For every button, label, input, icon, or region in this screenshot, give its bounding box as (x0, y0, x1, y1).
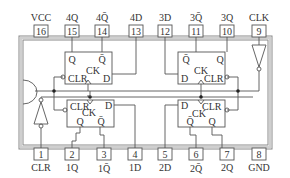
q-output-label: Q (216, 54, 224, 65)
pin-6: 6 2Q̄ (189, 148, 203, 174)
junction-dot (199, 95, 203, 99)
pin-number: 8 (257, 149, 262, 160)
q-output-label: Q (208, 116, 216, 127)
q-output-label: Q (76, 116, 84, 127)
pin-label: 2D (159, 162, 171, 173)
flip-flop-2: D CLR CK Q̄ Q (178, 100, 229, 127)
pin-label: 4Q (66, 12, 79, 23)
ck-input-label: CK (192, 108, 207, 119)
pin-number: 11 (191, 26, 201, 37)
pin-number: 15 (67, 26, 77, 37)
pin-label: 4Q̄ (96, 12, 109, 23)
pin-3: 3 1Q̄ (97, 148, 111, 174)
pin-14: 14 4Q̄ (95, 12, 109, 37)
top-pins: 16 VCC 15 4Q 14 4Q̄ 13 4D 12 3D 11 3Q̄ (31, 12, 270, 37)
chip-body (19, 36, 272, 149)
clr-input-label: CLR (68, 73, 88, 84)
pin-number: 3 (102, 149, 107, 160)
pin-12: 12 3D (158, 12, 172, 37)
pin-label: 2Q (221, 162, 234, 173)
qbar-output-label: Q̄ (186, 116, 194, 127)
pin-number: 4 (133, 149, 138, 160)
pin-number: 1 (39, 149, 44, 160)
clr-input-label: CLR (204, 73, 224, 84)
pin-label: CLR (31, 162, 51, 173)
pin-16: 16 VCC (31, 12, 52, 37)
pin-label: 1D (129, 162, 141, 173)
qbar-output-label: Q̄ (98, 54, 106, 65)
pin-10: 10 3Q (220, 12, 234, 37)
pin-15: 15 4Q (65, 12, 79, 37)
clr-inverter (34, 102, 48, 124)
ck-input-label: CK (86, 65, 101, 76)
pin-number: 9 (257, 26, 262, 37)
pin-label: 1Q̄ (98, 163, 111, 174)
pin-label: 3Q̄ (190, 12, 203, 23)
qbar-output-label: Q̄ (97, 116, 105, 127)
q-output-label: Q (68, 54, 76, 65)
pin-number: 2 (70, 149, 75, 160)
pin-label: 1Q (66, 162, 79, 173)
ck-input-label: CK (82, 107, 97, 118)
pin-number: 13 (131, 26, 141, 37)
pin-2: 2 1Q (65, 148, 79, 173)
clk-inverter (252, 45, 266, 67)
pin-4: 4 1D (128, 148, 142, 173)
bottom-pins: 1 CLR 2 1Q 3 1Q̄ 4 1D 5 2D 6 2Q̄ (31, 148, 270, 174)
pin-label: 2Q̄ (190, 163, 203, 174)
flip-flop-3: Q̄ Q CK D CLR (178, 52, 229, 84)
d-input-label: D (181, 73, 188, 84)
junction-dot (236, 89, 240, 93)
pin-number: 16 (36, 26, 46, 37)
pin-number: 12 (160, 26, 170, 37)
pin-label: 3D (159, 12, 171, 23)
inversion-bubble (39, 124, 43, 128)
pin-number: 5 (163, 149, 168, 160)
pin-label: 4D (130, 12, 142, 23)
pin-label: CLK (249, 12, 270, 23)
pin-label: VCC (31, 12, 52, 23)
pin-7: 7 2Q (220, 148, 234, 173)
d-input-label: D (181, 100, 188, 111)
pin-11: 11 3Q̄ (189, 12, 203, 37)
ic-pinout-diagram: 16 VCC 15 4Q 14 4Q̄ 13 4D 12 3D 11 3Q̄ (0, 0, 290, 178)
pin-13: 13 4D (129, 12, 143, 37)
d-input-label: D (103, 73, 110, 84)
pin-number: 7 (225, 149, 230, 160)
pin-9: 9 CLK (249, 12, 270, 37)
pin-label: 3Q (221, 12, 234, 23)
flip-flop-1: CLR D CK Q Q̄ (63, 100, 114, 127)
clr-inversion-bubble (63, 108, 67, 112)
d-input-label: D (105, 100, 112, 111)
pin-number: 14 (97, 26, 107, 37)
pin-5: 5 2D (158, 148, 172, 173)
junction-dot (52, 89, 56, 93)
qbar-output-label: Q̄ (182, 54, 190, 65)
pin-number: 10 (222, 26, 232, 37)
flip-flop-4: Q Q̄ CK CLR D (61, 52, 112, 84)
pin-number: 6 (194, 149, 199, 160)
pin-1: 1 CLR (31, 148, 51, 173)
pin-label: GND (248, 162, 270, 173)
orientation-notch (23, 80, 37, 104)
pin-8: 8 GND (248, 148, 270, 173)
